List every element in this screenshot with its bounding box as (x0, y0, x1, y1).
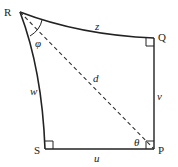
edge-label-z: z (94, 20, 100, 32)
vertex-label-r: R (4, 6, 12, 18)
edge-label-d: d (93, 72, 99, 84)
edge-w (20, 12, 45, 149)
right-angle-marker-s (45, 141, 53, 149)
edge-label-v: v (157, 90, 162, 102)
right-angle-marker-q (146, 38, 154, 46)
vertex-label-s: S (34, 144, 40, 156)
angle-label-phi: φ (35, 37, 41, 49)
angle-label-theta: θ (134, 136, 140, 148)
edge-label-u: u (94, 152, 100, 164)
vertex-label-q: Q (158, 31, 166, 43)
geometry-diagram: R Q P S z v u w d φ θ (0, 0, 178, 167)
diagonal-d (20, 12, 154, 149)
vertex-label-p: P (158, 144, 164, 156)
edge-label-w: w (30, 85, 38, 97)
